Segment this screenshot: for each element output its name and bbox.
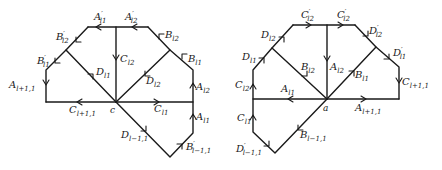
left-diagram: A′l1 A′l2 B′l2 B′l1 Al+1,1 Cl+1,1 Cl2 Dl…: [8, 10, 211, 157]
label-c-l2: Cl2: [120, 53, 135, 67]
vertex-a: a: [323, 103, 328, 113]
label-b-l1: Bl1: [354, 69, 369, 83]
label-c-l+1-1: Cl+1,1: [69, 104, 96, 118]
label-b-l-1-1-prime: B′l−1,1: [185, 140, 211, 155]
label-c-l2-prime-left: C′l2: [301, 8, 314, 23]
label-b-l2-prime: B′l2: [55, 30, 69, 45]
label-a-l2: Al2: [195, 81, 210, 95]
edge-b-l1: [327, 47, 376, 99]
label-a-l2-prime: A′l2: [124, 10, 138, 25]
right-diagram: C′l2 C′l2 Dl2 Dl1 D′l2 D′l1 Bl2 Al2 Bl1 …: [235, 8, 429, 157]
label-a-l1-prime: A′l1: [93, 10, 107, 25]
label-b-l1-prime: B′l1: [36, 54, 50, 69]
label-b-l-1-1: Bl−1,1: [299, 129, 327, 143]
arrow-up-left-icon: [159, 34, 164, 39]
label-d-l2: Dl2: [145, 75, 161, 89]
label-a-l+1-1: Al+1,1: [354, 102, 381, 116]
label-d-l1-prime: D′l1: [392, 46, 406, 61]
label-d-l2: Dl2: [260, 29, 276, 43]
label-c-l+1-1: Cl+1,1: [402, 76, 429, 90]
label-b-l2: Bl2: [164, 29, 180, 43]
label-a-l2: Al2: [329, 61, 344, 75]
label-b-l2: Bl2: [300, 61, 316, 75]
label-a-l1: Al1: [280, 83, 295, 97]
label-d-l-1-1-prime: D′l−1,1: [235, 142, 262, 157]
label-b-l1: Bl1: [187, 53, 202, 67]
label-d-l1: Dl1: [241, 51, 257, 65]
label-c-l2: Cl2: [235, 79, 250, 93]
label-d-l2-prime: D′l2: [368, 24, 383, 39]
label-d-l1: Dl1: [95, 66, 111, 80]
label-a-l+1-1: Al+1,1: [8, 79, 35, 93]
label-a-l1: Al1: [195, 111, 210, 125]
figure: A′l1 A′l2 B′l2 B′l1 Al+1,1 Cl+1,1 Cl2 Dl…: [0, 0, 442, 170]
label-c-l2-prime-right: C′l2: [337, 8, 350, 23]
vertex-c: c: [110, 105, 115, 115]
arrow-up-left-icon: [182, 54, 187, 59]
label-c-l1: Cl1: [154, 103, 168, 117]
label-c-l1: Cl1: [237, 112, 251, 126]
